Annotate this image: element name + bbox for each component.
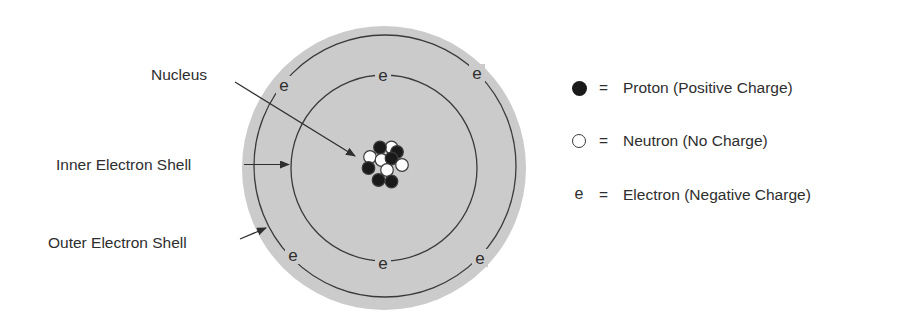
electron-outer-bottom-left: e (288, 246, 297, 265)
neutron (381, 164, 394, 177)
proton (362, 162, 375, 175)
electron-outer-top-left: e (279, 76, 288, 95)
electron-outer-top-right: e (472, 64, 481, 83)
legend-text: Electron (Negative Charge) (623, 186, 811, 204)
proton-icon (568, 81, 590, 96)
proton (372, 174, 385, 187)
legend-equals: = (599, 132, 619, 150)
legend-equals: = (599, 186, 619, 204)
nucleus-label: Nucleus (151, 66, 207, 84)
proton (374, 141, 387, 154)
neutron-icon (568, 134, 590, 148)
legend-equals: = (599, 79, 619, 97)
inner-shell-label: Inner Electron Shell (56, 156, 191, 174)
outer-shell-label: Outer Electron Shell (48, 234, 187, 252)
neutron (396, 159, 409, 172)
electron-icon: e (568, 186, 590, 202)
atom-diagram: e e e e e e (0, 0, 905, 323)
legend-item-electron: e = Electron (Negative Charge) (568, 185, 811, 205)
proton (385, 175, 398, 188)
legend-text: Neutron (No Charge) (623, 132, 768, 150)
legend-item-neutron: = Neutron (No Charge) (568, 131, 768, 151)
legend-text: Proton (Positive Charge) (623, 79, 793, 97)
electron-inner-top: e (378, 66, 387, 85)
legend-item-proton: = Proton (Positive Charge) (568, 78, 793, 98)
electron-outer-bottom-right: e (475, 249, 484, 268)
electron-inner-bottom: e (378, 254, 387, 273)
